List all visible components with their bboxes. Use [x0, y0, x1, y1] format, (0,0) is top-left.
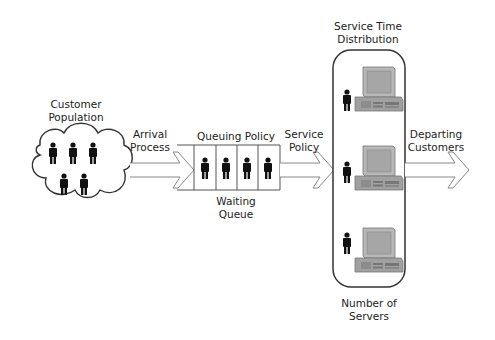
label-line: Servers — [341, 310, 397, 323]
label-line: Queue — [216, 208, 255, 221]
number-of-servers-label: Number of Servers — [341, 297, 397, 323]
label-line: Waiting — [216, 195, 255, 208]
departing-customers-label: Departing Customers — [408, 128, 464, 154]
departing-arrow-icon — [405, 152, 469, 188]
waiting-queue — [177, 145, 280, 190]
label-line: Distribution — [334, 33, 402, 46]
label-line: Customer — [48, 98, 103, 111]
person-icon — [243, 157, 251, 179]
label-line: Population — [48, 111, 103, 124]
service-arrow-icon — [280, 152, 334, 188]
service-time-label: Service Time Distribution — [334, 20, 402, 46]
arrival-process-label: Arrival Process — [130, 128, 170, 154]
label-line: Service — [285, 128, 324, 141]
label-line: Number of — [341, 297, 397, 310]
service-policy-label: Service Policy — [285, 128, 324, 154]
waiting-queue-label: Waiting Queue — [216, 195, 255, 221]
label-line: Arrival — [130, 128, 170, 141]
label-line: Policy — [285, 141, 324, 154]
servers-box — [333, 50, 405, 287]
person-icon — [222, 157, 230, 179]
label-line: Queuing Policy — [197, 130, 275, 143]
queuing-diagram — [0, 0, 495, 340]
queuing-policy-label: Queuing Policy — [197, 130, 275, 143]
person-icon — [264, 157, 272, 179]
customer-population-label: Customer Population — [48, 98, 103, 124]
arrival-arrow-icon — [130, 152, 194, 188]
label-line: Process — [130, 141, 170, 154]
customer-population-cloud — [32, 123, 132, 197]
label-line: Customers — [408, 141, 464, 154]
person-icon — [201, 157, 209, 179]
label-line: Departing — [408, 128, 464, 141]
label-line: Service Time — [334, 20, 402, 33]
